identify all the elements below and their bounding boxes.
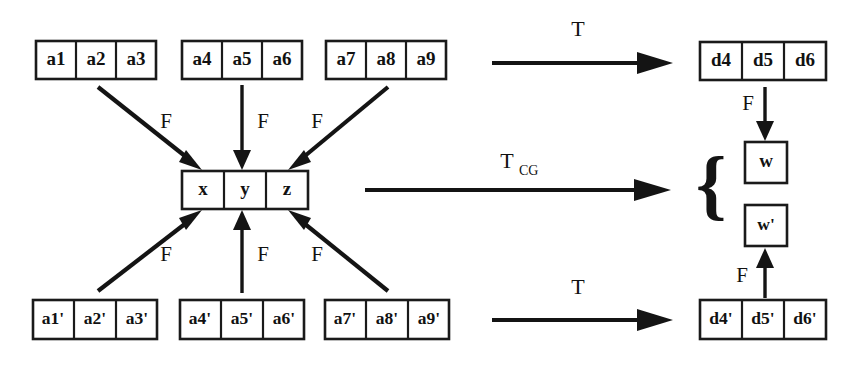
f-label-right-top: F [742, 91, 754, 115]
arrow-head [756, 248, 774, 268]
group-a4p-a6p: a4' a5' a6' [180, 300, 304, 339]
cell-label: w' [757, 214, 775, 234]
f-label-top-left: F [160, 109, 172, 133]
arrow-head [637, 52, 673, 74]
cell-label: a4 [193, 48, 213, 69]
map-arrow-bottom: T [492, 274, 673, 331]
cell-label: a2 [87, 48, 106, 69]
f-label-top-right: F [311, 109, 323, 133]
result-w-prime: w' [745, 205, 787, 246]
cell-label: a6 [273, 48, 292, 69]
diagram-svg: a1 a2 a3 a4 a5 a6 a7 a8 a9 [0, 0, 864, 365]
cell-label: d5 [753, 49, 773, 70]
f-arrow-bottom-right [288, 210, 388, 291]
cell-label: d6 [795, 49, 815, 70]
cell-label: a7 [337, 48, 357, 69]
f-arrow-bottom-middle [233, 210, 251, 293]
group-a1-a3: a1 a2 a3 [36, 41, 156, 79]
cell-label: a1 [47, 48, 66, 69]
diagram-canvas: a1 a2 a3 a4 a5 a6 a7 a8 a9 [0, 0, 864, 365]
f-label-bottom-right: F [311, 242, 323, 266]
cell-label: a2' [84, 308, 106, 328]
arrow-head [756, 121, 774, 141]
cell-label: d5' [751, 308, 774, 328]
cell-label: d4' [709, 308, 732, 328]
cell-label: y [240, 178, 250, 199]
result-brace: { [696, 140, 727, 227]
cell-label: x [198, 178, 208, 199]
map-label-middle-subscript: CG [519, 163, 538, 178]
cell-label: a7' [334, 308, 356, 328]
coarse-grained-state: x y z [182, 171, 308, 209]
cell-label: a5' [231, 308, 253, 328]
bottom-target-row: d4' d5' d6' [700, 300, 826, 339]
group-a1p-a3p: a1' a2' a3' [33, 300, 157, 339]
f-arrow-top-right [288, 87, 388, 170]
f-label-right-bottom: F [736, 263, 748, 287]
f-arrow-right-bottom: F [736, 248, 774, 298]
cell-label: a8' [376, 308, 398, 328]
arrow-head [637, 309, 673, 331]
arrow-head [233, 150, 251, 170]
top-source-row: a1 a2 a3 a4 a5 a6 a7 a8 a9 [36, 41, 446, 79]
f-arrow-bottom-left [98, 210, 202, 291]
map-label-middle: T [500, 148, 514, 173]
cell-label: z [283, 178, 292, 199]
f-label-bottom-left: F [160, 242, 172, 266]
cell-label: a5 [233, 48, 252, 69]
brace-glyph: { [696, 140, 727, 227]
f-arrow-top-left [98, 87, 202, 170]
cell-label: a6' [273, 308, 295, 328]
cell-label: a8 [377, 48, 396, 69]
cell-label: a4' [189, 308, 211, 328]
group-a7p-a9p: a7' a8' a9' [325, 300, 449, 339]
arrow-head [233, 210, 251, 230]
top-target-row: d4 d5 d6 [700, 42, 826, 80]
cell-label: a3 [127, 48, 146, 69]
bottom-coarse-grain-arrows: F F F [98, 210, 388, 293]
arrow-shaft [98, 220, 190, 291]
cell-label: d6' [793, 308, 816, 328]
result-w: w [745, 142, 787, 183]
map-arrow-top: T [492, 16, 673, 74]
map-label-bottom: T [571, 274, 585, 299]
f-arrow-right-top: F [742, 87, 774, 141]
bottom-source-row: a1' a2' a3' a4' a5' a6' a7' a8' a9' [33, 300, 449, 339]
cell-label: w [759, 150, 773, 171]
top-coarse-grain-arrows: F F F [98, 85, 388, 170]
group-a7-a9: a7 a8 a9 [326, 41, 446, 79]
cell-label: a1' [42, 308, 64, 328]
cell-label: a9 [417, 48, 436, 69]
f-label-bottom-middle: F [257, 242, 269, 266]
group-a4-a6: a4 a5 a6 [182, 41, 302, 79]
cell-label: d4 [711, 49, 732, 70]
map-arrow-middle: T CG [365, 148, 671, 201]
map-label-top: T [571, 16, 585, 41]
arrow-shaft [98, 87, 190, 160]
cell-label: a9' [418, 308, 440, 328]
cell-label: a3' [126, 308, 148, 328]
f-label-top-middle: F [257, 109, 269, 133]
f-arrow-top-middle [233, 85, 251, 170]
arrow-head [634, 179, 671, 201]
